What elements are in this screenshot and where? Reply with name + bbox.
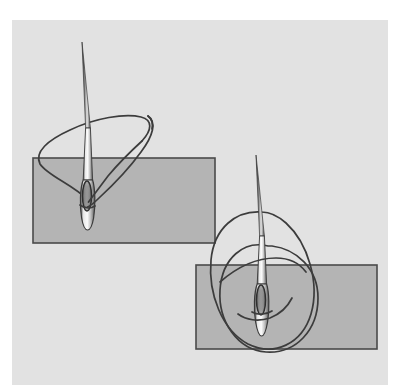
needle-lower-right-eye-highlight	[259, 289, 263, 311]
illustration-canvas: Sewing needles threaded through fabric T…	[0, 0, 399, 389]
fabric-upper-left	[33, 158, 215, 243]
needle-illustration-svg	[0, 0, 399, 389]
needle-upper-left-eye-highlight	[85, 185, 89, 207]
